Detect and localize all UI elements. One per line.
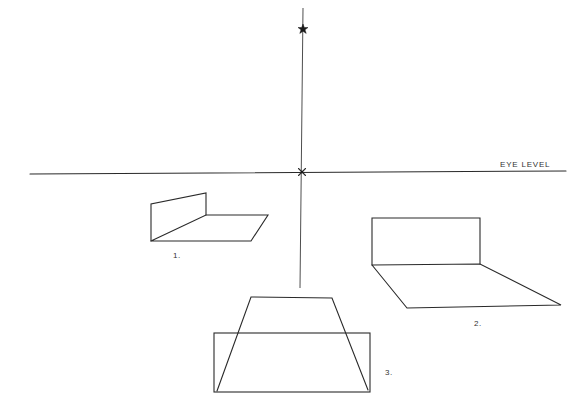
vertical-axis-line xyxy=(300,8,303,288)
figure-1-floor xyxy=(151,215,268,241)
figure-2-label: 2. xyxy=(474,320,482,328)
figure-1-wall xyxy=(151,193,206,241)
figure-3-rectangle-and-trapezoid xyxy=(214,297,370,392)
figure-3-label: 3. xyxy=(385,369,393,377)
eye-level-label: EYE LEVEL xyxy=(500,161,550,169)
figure-2-floor xyxy=(372,264,561,308)
perspective-diagram xyxy=(0,0,577,407)
figure-3-rectangle xyxy=(214,333,370,392)
eye-level-line xyxy=(30,171,566,174)
figure-1-wall-and-floor xyxy=(151,193,268,241)
figure-3-trapezoid xyxy=(217,297,368,391)
figure-2-wall xyxy=(372,218,480,265)
figure-1-label: 1. xyxy=(173,252,181,260)
figure-2-wall-and-floor xyxy=(372,218,561,308)
